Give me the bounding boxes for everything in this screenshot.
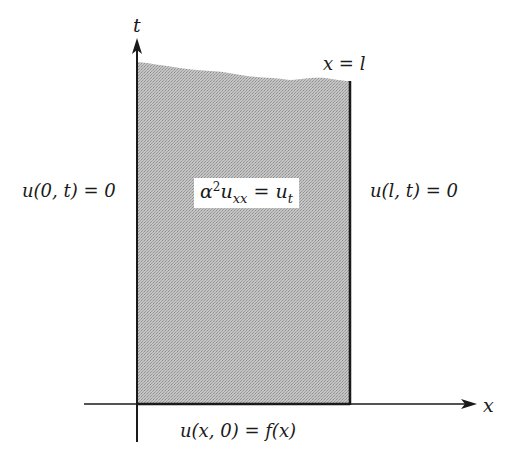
right-boundary-label: x = l [323,53,365,74]
left-boundary-condition: u(0, t) = 0 [22,180,116,201]
pde-u-rhs: u [275,180,287,202]
initial-condition: u(x, 0) = f(x) [180,420,296,441]
pde-sub-xx: xx [233,191,248,206]
pde-equals: = [253,180,269,202]
pde-u-lhs: u [220,180,232,202]
heat-equation-label: α2uxx = ut [194,178,299,208]
pde-sub-t: t [288,191,293,206]
right-boundary-condition: u(l, t) = 0 [370,180,458,201]
pde-alpha: α [200,180,213,202]
x-axis-label: x [483,394,494,416]
solution-domain-region [137,62,350,404]
diagram-canvas [0,0,515,471]
t-axis-label: t [133,14,141,36]
